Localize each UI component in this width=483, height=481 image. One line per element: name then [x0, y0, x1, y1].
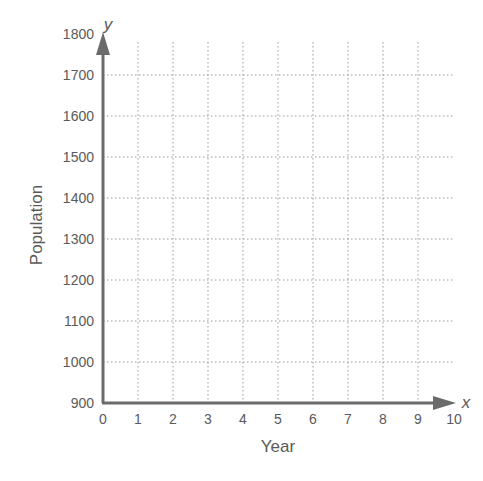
x-tick-labels: 012345678910 — [99, 411, 462, 427]
y-axis-arrow-icon — [96, 32, 110, 55]
axes — [96, 32, 456, 410]
y-tick-label: 900 — [71, 395, 95, 411]
x-tick-label: 8 — [379, 411, 387, 427]
y-tick-label: 1800 — [63, 26, 94, 42]
x-axis-arrow-icon — [433, 396, 456, 410]
y-tick-label: 1100 — [64, 313, 94, 329]
x-tick-label: 9 — [414, 411, 422, 427]
x-tick-label: 3 — [204, 411, 212, 427]
x-tick-label: 7 — [344, 411, 352, 427]
y-axis-variable: y — [103, 15, 114, 34]
x-tick-label: 10 — [446, 411, 462, 427]
x-tick-label: 0 — [99, 411, 107, 427]
x-axis-variable: x — [461, 393, 471, 412]
x-tick-label: 4 — [239, 411, 247, 427]
x-axis-label: Year — [261, 437, 296, 456]
x-tick-label: 2 — [169, 411, 177, 427]
y-tick-label: 1500 — [63, 149, 94, 165]
y-tick-label: 1700 — [63, 67, 94, 83]
y-axis-label: Population — [27, 185, 46, 265]
x-tick-label: 6 — [309, 411, 317, 427]
x-tick-label: 1 — [134, 411, 142, 427]
y-tick-label: 1000 — [63, 354, 94, 370]
coordinate-grid-chart: 900100011001200130014001500160017001800 … — [0, 0, 483, 481]
y-tick-labels: 900100011001200130014001500160017001800 — [63, 26, 94, 411]
y-tick-label: 1400 — [63, 190, 94, 206]
grid-lines — [103, 42, 455, 403]
y-tick-label: 1600 — [63, 108, 94, 124]
x-tick-label: 5 — [274, 411, 282, 427]
y-tick-label: 1300 — [63, 231, 94, 247]
y-tick-label: 1200 — [63, 272, 94, 288]
